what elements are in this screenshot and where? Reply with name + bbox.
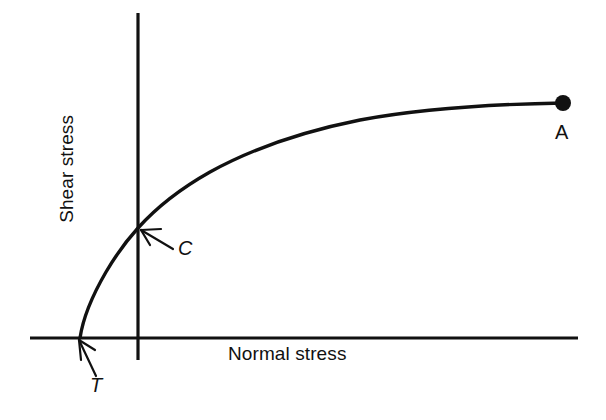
y-axis-label: Shear stress [57, 115, 76, 223]
failure-envelope-figure: Normal stress Shear stress A C T [0, 0, 606, 420]
failure-envelope-curve [80, 103, 563, 338]
point-t-arrow [79, 340, 96, 376]
point-c-arrow [141, 229, 173, 249]
point-t-label: T [90, 375, 102, 395]
point-c-label: C [178, 238, 192, 258]
x-axis-label: Normal stress [228, 344, 346, 363]
point-a-dot [555, 95, 571, 111]
point-a-label: A [555, 122, 568, 142]
